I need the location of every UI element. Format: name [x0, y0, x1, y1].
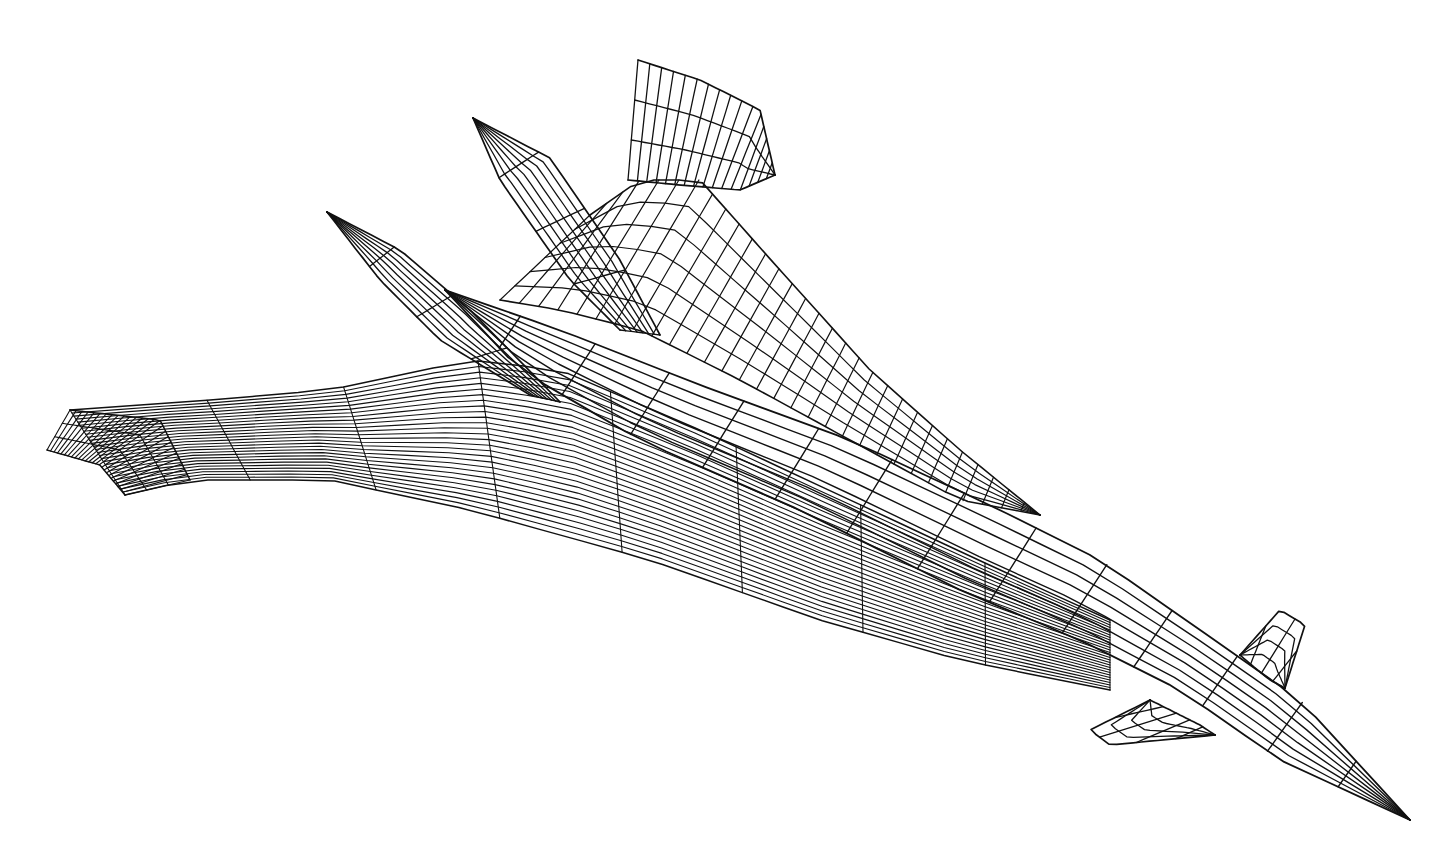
mesh-rib-line	[985, 563, 986, 665]
aircraft-wireframe-diagram	[0, 0, 1451, 853]
